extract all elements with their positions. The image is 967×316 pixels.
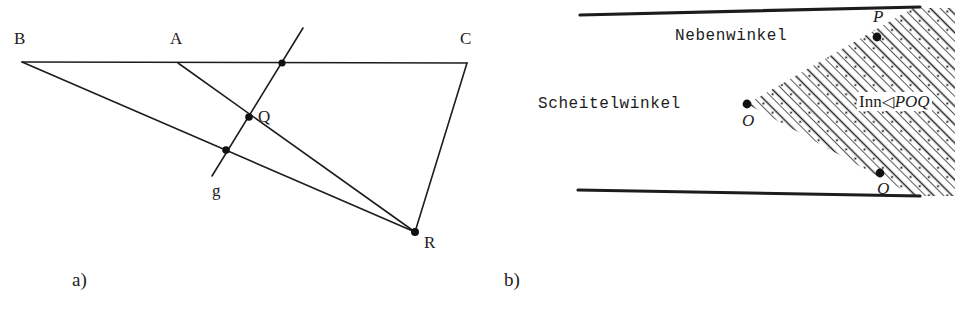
point-label-P: P <box>873 8 883 25</box>
point-label-C: C <box>460 30 471 47</box>
inn-prefix-text: Inn <box>859 92 882 111</box>
point-dot-Q <box>876 169 885 178</box>
point-dot-br-g-intersection <box>222 146 230 154</box>
figure-sheet: B A C Q R g a) <box>0 0 967 316</box>
point-label-Q: Q <box>877 180 889 197</box>
angle-symbol-icon: ◁ <box>882 93 895 110</box>
segment-line-CR <box>415 63 467 232</box>
panel-caption-b: b) <box>504 270 520 289</box>
segment-line-AR <box>178 63 415 232</box>
line-label-g: g <box>212 182 221 199</box>
point-label-A: A <box>170 30 182 47</box>
region-label-interior-angle-POQ: Inn◁POQ <box>857 92 932 111</box>
region-label-scheitelwinkel: Scheitelwinkel <box>538 96 681 112</box>
point-label-Q: Q <box>258 108 270 125</box>
point-dot-Q <box>245 113 253 121</box>
angle-name-text: POQ <box>895 92 930 111</box>
region-label-nebenwinkel: Nebenwinkel <box>675 28 787 44</box>
point-label-O: O <box>742 112 754 129</box>
panel-caption-a: a) <box>72 270 87 289</box>
figure-panel-b: Nebenwinkel Scheitelwinkel Inn◁POQ O P Q… <box>490 0 967 316</box>
segment-line-BC <box>22 62 467 63</box>
segment-line-through-O-and-P <box>580 7 920 15</box>
point-dot-O <box>743 100 752 109</box>
point-label-R: R <box>424 234 435 251</box>
point-dot-bc-g-intersection <box>278 59 285 66</box>
point-dot-P <box>873 33 882 42</box>
figure-panel-a: B A C Q R g a) <box>0 0 490 316</box>
point-dot-R <box>411 228 419 236</box>
segment-line-g <box>212 28 303 176</box>
point-label-B: B <box>14 30 25 47</box>
segment-line-through-O-and-Q <box>578 190 920 196</box>
segment-line-BR <box>22 62 415 232</box>
panel-b-drawing <box>490 0 967 316</box>
